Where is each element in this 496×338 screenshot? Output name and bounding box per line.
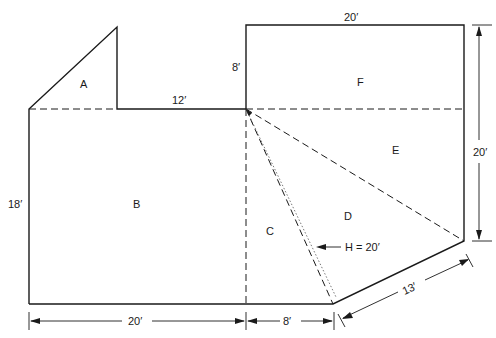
arrow-up-right-icon	[459, 259, 469, 266]
area-diagram: A B C D E F 20′ 8′ 12′ 18′ 20′ 20′ 8′	[0, 0, 496, 338]
height-callout: H = 20′	[316, 241, 380, 253]
arrow-left-icon	[247, 318, 257, 324]
dim-label-f-height: 8′	[232, 61, 240, 73]
dim-bottom-b: 20′	[29, 312, 246, 330]
region-label-f: F	[357, 76, 364, 88]
region-label-c: C	[266, 225, 274, 237]
dim-diagonal: 13′	[338, 254, 473, 327]
dim-label-bottom-b: 20′	[128, 315, 142, 327]
dim-label-diagonal: 13′	[400, 280, 418, 297]
dim-label-right-height: 20′	[473, 146, 487, 158]
vertex-arrow-icon	[246, 109, 252, 116]
region-label-b: B	[133, 198, 140, 210]
construction-lines	[29, 109, 464, 304]
arrow-down-left-icon	[342, 312, 353, 319]
dashed-line-d-e-divider	[246, 109, 464, 241]
dim-label-f-width: 20′	[344, 11, 358, 23]
region-label-a: A	[80, 78, 88, 90]
dim-label-bottom-c: 8′	[283, 315, 291, 327]
dim-label-height-h: H = 20′	[345, 241, 380, 253]
dim-label-span-12: 12′	[172, 94, 186, 106]
dim-label-b-height: 18′	[8, 198, 22, 210]
dashed-line-c-d-divider	[246, 109, 333, 304]
dim-right-height: 20′	[472, 25, 492, 241]
dotted-height-line	[246, 109, 336, 297]
region-label-d: D	[344, 210, 352, 222]
arrow-down-icon	[476, 230, 482, 240]
arrow-up-icon	[476, 26, 482, 36]
dim-bottom-c: 8′	[247, 312, 334, 330]
arrow-left-icon	[316, 244, 326, 250]
region-label-e: E	[392, 144, 399, 156]
arrow-left-icon	[30, 318, 40, 324]
arrow-right-icon	[235, 318, 245, 324]
arrow-right-icon	[323, 318, 333, 324]
